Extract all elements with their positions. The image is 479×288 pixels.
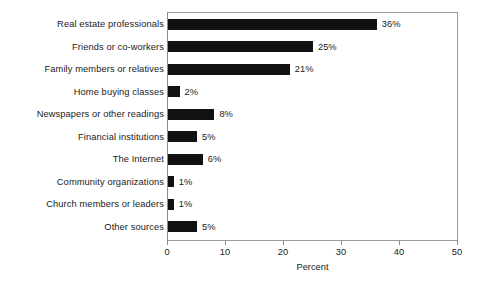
bar-value-label: 5% xyxy=(202,216,215,239)
category-label: Home buying classes xyxy=(74,81,164,104)
x-tick xyxy=(341,241,342,245)
chart-row: Newspapers or other readings8% xyxy=(0,103,479,126)
chart-row: Church members or leaders1% xyxy=(0,193,479,216)
bar-value-label: 6% xyxy=(208,148,221,171)
x-tick-label: 20 xyxy=(278,247,288,257)
x-tick xyxy=(283,241,284,245)
x-tick xyxy=(167,241,168,245)
bar-value-label: 21% xyxy=(295,58,314,81)
category-label: Real estate professionals xyxy=(57,13,164,36)
bar xyxy=(168,86,180,97)
bar xyxy=(168,131,197,142)
bar-value-label: 25% xyxy=(318,36,337,59)
x-tick xyxy=(457,241,458,245)
chart-row: The Internet6% xyxy=(0,148,479,171)
category-label: Family members or relatives xyxy=(45,58,164,81)
category-label: Other sources xyxy=(104,216,164,239)
x-tick xyxy=(399,241,400,245)
category-label: Community organizations xyxy=(57,171,164,194)
category-label: The Internet xyxy=(113,148,164,171)
bar-value-label: 5% xyxy=(202,126,215,149)
x-tick-label: 50 xyxy=(452,247,462,257)
bar xyxy=(168,221,197,232)
bar-value-label: 8% xyxy=(219,103,232,126)
bar xyxy=(168,199,174,210)
chart-row: Real estate professionals36% xyxy=(0,13,479,36)
bar xyxy=(168,154,203,165)
bar-chart: Real estate professionals36%Friends or c… xyxy=(0,0,479,288)
bar xyxy=(168,19,377,30)
x-tick-label: 0 xyxy=(164,247,169,257)
bar-value-label: 36% xyxy=(382,13,401,36)
category-label: Newspapers or other readings xyxy=(37,103,164,126)
bar xyxy=(168,64,290,75)
x-axis-title: Percent xyxy=(0,262,479,272)
x-tick-label: 10 xyxy=(220,247,230,257)
chart-row: Community organizations1% xyxy=(0,171,479,194)
bar-value-label: 1% xyxy=(179,193,192,216)
chart-row: Family members or relatives21% xyxy=(0,58,479,81)
bar xyxy=(168,176,174,187)
category-label: Friends or co-workers xyxy=(72,36,164,59)
x-tick-label: 30 xyxy=(336,247,346,257)
bar-value-label: 2% xyxy=(185,81,198,104)
x-tick-label: 40 xyxy=(394,247,404,257)
x-axis-title-text: Percent xyxy=(296,262,328,272)
chart-row: Home buying classes2% xyxy=(0,81,479,104)
chart-row: Friends or co-workers25% xyxy=(0,36,479,59)
chart-row: Other sources5% xyxy=(0,216,479,239)
category-label: Financial institutions xyxy=(78,126,164,149)
bar-value-label: 1% xyxy=(179,171,192,194)
x-tick xyxy=(225,241,226,245)
bar xyxy=(168,41,313,52)
bar xyxy=(168,109,214,120)
category-label: Church members or leaders xyxy=(46,193,164,216)
chart-row: Financial institutions5% xyxy=(0,126,479,149)
